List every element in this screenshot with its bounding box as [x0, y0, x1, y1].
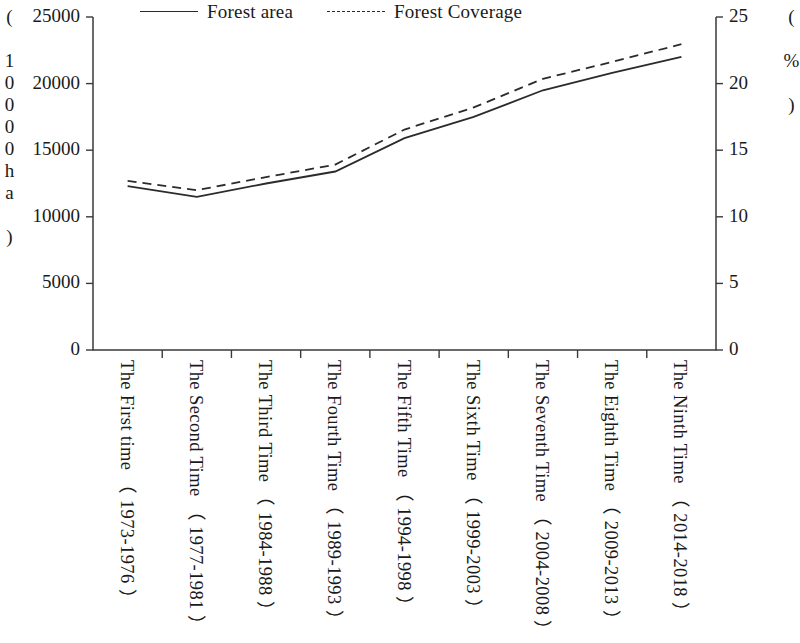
forest-area-coverage-chart: Forest area Forest Coverage ( 10000ha ) … — [0, 0, 800, 643]
plot-area — [0, 0, 800, 643]
series-line-forest-area — [128, 57, 682, 197]
series-line-forest-coverage — [128, 44, 682, 190]
axis-frame — [93, 17, 716, 350]
